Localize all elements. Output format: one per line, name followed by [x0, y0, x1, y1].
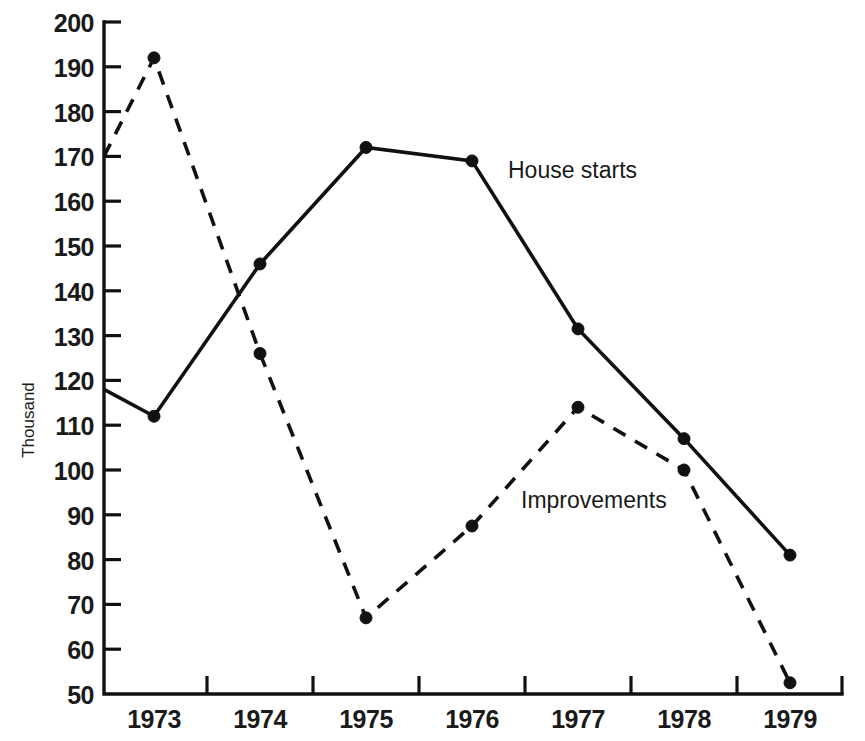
data-point [254, 258, 266, 270]
series-line-improvements [104, 58, 790, 683]
y-tick-label: 200 [54, 9, 94, 37]
y-tick-label: 70 [67, 591, 94, 619]
data-point [572, 401, 584, 413]
y-tick-label: 120 [54, 367, 94, 395]
y-tick-label: 50 [67, 681, 94, 709]
x-tick-label: 1978 [657, 705, 711, 733]
y-tick-label: 60 [67, 636, 94, 664]
y-tick-label: 140 [54, 278, 94, 306]
series-line-house-starts [104, 147, 790, 555]
x-tick-label: 1976 [445, 705, 499, 733]
chart-canvas: 200 190 180 170 160 150 140 130 120 110 … [0, 0, 865, 741]
y-tick-label: 130 [54, 323, 94, 351]
data-point [254, 348, 266, 360]
y-tick-label: 190 [54, 54, 94, 82]
y-axis-title: Thousand [19, 382, 38, 458]
y-tick-label: 110 [55, 412, 94, 440]
data-point [678, 433, 690, 445]
x-tick-label: 1974 [233, 705, 287, 733]
y-tick-label: 170 [54, 143, 94, 171]
axis-frame [104, 22, 842, 694]
data-point [148, 410, 160, 422]
data-point [784, 549, 796, 561]
data-point [466, 520, 478, 532]
x-tick-label: 1979 [763, 705, 817, 733]
series-label-improvements: Improvements [521, 487, 667, 513]
y-tick-label: 180 [54, 99, 94, 127]
x-axis-tick-labels: 1973 1974 1975 1976 1977 1978 1979 [127, 705, 817, 733]
data-series-layer [104, 52, 796, 689]
x-tick-label: 1977 [551, 705, 605, 733]
data-point [678, 464, 690, 476]
y-tick-label: 90 [67, 502, 94, 530]
series-label-house-starts: House starts [508, 157, 637, 183]
y-tick-label: 150 [54, 233, 94, 261]
data-point [784, 677, 796, 689]
data-point [466, 155, 478, 167]
y-tick-label: 100 [54, 457, 94, 485]
data-point [360, 612, 372, 624]
x-tick-label: 1975 [339, 705, 393, 733]
y-axis-tick-labels: 200 190 180 170 160 150 140 130 120 110 … [54, 9, 94, 709]
y-tick-label: 160 [54, 188, 94, 216]
data-point [360, 141, 372, 153]
y-tick-label: 80 [67, 547, 94, 575]
y-tick-marks [104, 22, 121, 649]
x-tick-marks [207, 676, 842, 694]
x-tick-label: 1973 [127, 705, 181, 733]
data-point [572, 323, 584, 335]
line-chart: 200 190 180 170 160 150 140 130 120 110 … [0, 0, 865, 741]
data-point [148, 52, 160, 64]
